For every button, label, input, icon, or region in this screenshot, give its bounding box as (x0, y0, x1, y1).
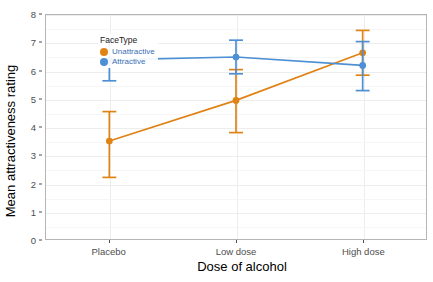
y-axis-tick-label: 3 (31, 150, 36, 161)
y-axis-tick-labels: 012345678 (22, 14, 42, 238)
y-axis-tick-mark (39, 14, 42, 15)
legend-title: FaceType (100, 35, 155, 45)
data-point (106, 138, 113, 145)
data-point (233, 97, 240, 104)
y-axis-tick-label: 6 (31, 65, 36, 76)
legend-swatch-unattractive (100, 48, 108, 56)
legend-swatch-attractive (100, 58, 108, 66)
y-axis-tick-label: 2 (31, 178, 36, 189)
y-axis-tick-mark (39, 155, 42, 156)
x-axis-tick-label: Low dose (216, 246, 257, 257)
attractiveness-rating-line-chart: Mean attractiveness rating 012345678 Fac… (0, 0, 433, 282)
y-axis-tick-label: 8 (31, 9, 36, 20)
y-axis-tick-label: 7 (31, 37, 36, 48)
x-axis-tick-label: Placebo (91, 246, 125, 257)
legend-item-unattractive[interactable]: Unattractive (100, 47, 155, 56)
data-point (359, 62, 366, 69)
legend-item-attractive[interactable]: Attractive (100, 57, 155, 66)
legend-label-attractive: Attractive (112, 57, 145, 66)
y-axis-tick-label: 5 (31, 93, 36, 104)
y-axis-tick-label: 1 (31, 206, 36, 217)
y-axis-tick-mark (39, 70, 42, 71)
y-axis-tick-label: 4 (31, 122, 36, 133)
plot-panel: FaceType Unattractive Attractive (45, 14, 427, 240)
y-axis-tick-mark (39, 127, 42, 128)
y-axis-tick-mark (39, 211, 42, 212)
y-axis-tick-mark (39, 183, 42, 184)
x-axis-title: Dose of alcohol (57, 259, 427, 274)
x-axis-tick-labels: PlaceboLow doseHigh dose (45, 240, 427, 258)
data-point (233, 54, 240, 61)
y-axis-tick-label: 0 (31, 235, 36, 246)
x-axis-tick-mark (109, 240, 110, 243)
x-axis-tick-label: High dose (342, 246, 385, 257)
legend: FaceType Unattractive Attractive (98, 34, 158, 68)
y-axis-tick-mark (39, 98, 42, 99)
x-axis-tick-mark (363, 240, 364, 243)
y-axis-tick-mark (39, 240, 42, 241)
x-axis-tick-mark (236, 240, 237, 243)
legend-label-unattractive: Unattractive (112, 47, 155, 56)
y-axis-title: Mean attractiveness rating (0, 0, 20, 282)
y-axis-tick-mark (39, 42, 42, 43)
